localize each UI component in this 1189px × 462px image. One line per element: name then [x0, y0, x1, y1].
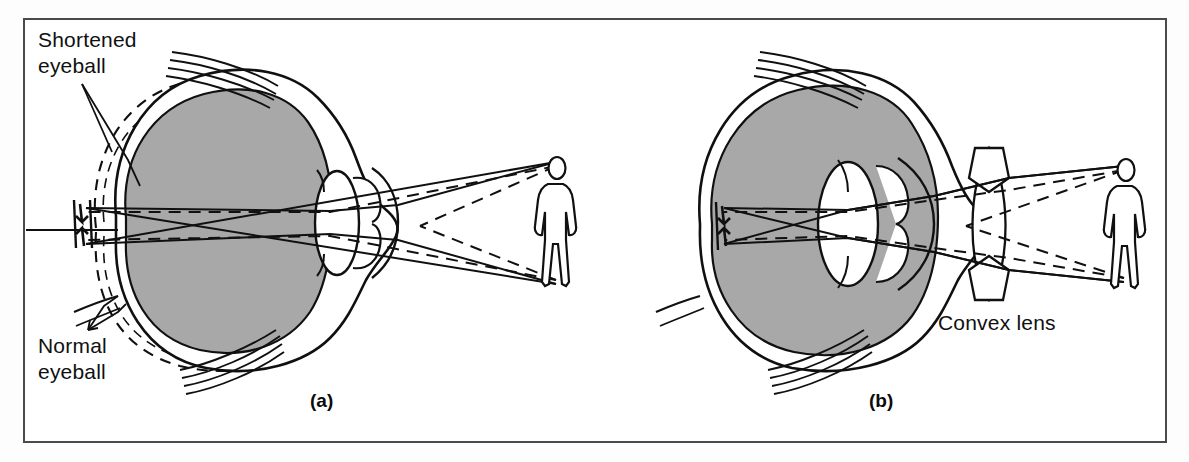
label-normal-eyeball: Normal eyeball [38, 333, 107, 385]
eye-b-optic-nerve-lower [660, 308, 704, 326]
label-shortened-eyeball: Shortened eyeball [38, 27, 137, 79]
panel-label-a: (a) [310, 390, 333, 412]
convex-corrective-lens [969, 148, 1009, 300]
eye-a-optic-nerve [74, 296, 118, 312]
leader-shortened-eyeball-2 [82, 84, 112, 152]
eye-b-optic-nerve [656, 296, 700, 312]
leader-convex-lens [968, 302, 980, 306]
panel-label-b: (b) [869, 390, 893, 412]
eye-a-vitreous-body [125, 89, 332, 353]
diagram-artwork [0, 0, 1189, 462]
figure-root: Shortened eyeball Normal eyeball Convex … [0, 0, 1189, 462]
panel-b-group [656, 52, 1145, 394]
label-convex-lens: Convex lens [938, 310, 1056, 336]
eye-b-crystalline-lens [818, 162, 878, 286]
panel-a-group [26, 52, 576, 394]
eye-a-crystalline-lens [315, 171, 359, 275]
person-figure-a [535, 157, 576, 286]
person-figure-b [1104, 159, 1145, 288]
